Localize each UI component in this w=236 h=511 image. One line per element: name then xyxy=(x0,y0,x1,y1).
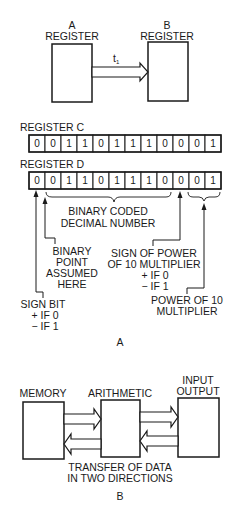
hollow-arrow-left-icon xyxy=(64,434,101,454)
bcd-label-line2: DECIMAL NUMBER xyxy=(61,217,156,229)
hollow-arrow-left-icon xyxy=(140,431,178,451)
binary-point-leader-line xyxy=(45,203,55,244)
register-bit-value: 1 xyxy=(114,175,120,186)
arrowhead-up-icon xyxy=(43,197,48,204)
figure-b: MEMORY ARITHMETIC INPUT OUTPUT TRANSFER … xyxy=(19,374,220,502)
register-bit-value: 1 xyxy=(66,175,72,186)
arrowhead-up-icon xyxy=(34,190,39,197)
figure-a: A REGISTER B REGISTER t1 REGISTER C 0011… xyxy=(20,19,223,348)
register-bit-value: 0 xyxy=(50,138,56,149)
register-a-box xyxy=(52,44,92,102)
sign-bit-leader-line xyxy=(36,196,43,298)
register-bit-value: 1 xyxy=(66,138,72,149)
arithmetic-box xyxy=(101,400,140,457)
diagram-canvas: A REGISTER B REGISTER t1 REGISTER C 0011… xyxy=(0,0,236,511)
arrowhead-up-icon xyxy=(178,191,183,198)
register-bit-value: 0 xyxy=(178,175,184,186)
transfer-label-line2: IN TWO DIRECTIONS xyxy=(67,472,172,484)
arrowhead-up-icon xyxy=(202,203,207,210)
binary-point-line4: HERE xyxy=(57,278,86,290)
transfer-time-label: t1 xyxy=(113,52,120,65)
register-c-cells: 001101110001 xyxy=(29,135,221,152)
register-a: A REGISTER xyxy=(45,19,99,102)
hollow-arrow-right-icon xyxy=(92,63,148,81)
sign-of-power-leader-line xyxy=(153,197,180,246)
register-bit-value: 1 xyxy=(130,175,136,186)
register-d-cells: 001101110001 xyxy=(29,172,221,189)
sign-bit-pointer xyxy=(34,190,44,298)
register-bit-value: 1 xyxy=(114,138,120,149)
io-label-line2: OUTPUT xyxy=(176,385,220,397)
register-bit-value: 1 xyxy=(146,138,152,149)
register-d: REGISTER D 001101110001 xyxy=(20,158,221,189)
io-box xyxy=(178,398,219,457)
bcd-brace xyxy=(46,192,171,202)
sign-of-power-pointer xyxy=(153,191,183,246)
transfer-arrow-a-to-b: t1 xyxy=(92,52,148,81)
register-a-label: REGISTER xyxy=(45,30,99,42)
memory-label: MEMORY xyxy=(19,387,66,399)
bcd-label-line1: BINARY CODED xyxy=(68,205,148,217)
register-b-label: REGISTER xyxy=(140,30,194,42)
register-bit-value: 1 xyxy=(82,175,88,186)
sign-of-power-line4: − IF 1 xyxy=(141,280,168,292)
register-bit-value: 0 xyxy=(98,175,104,186)
register-bit-value: 1 xyxy=(130,138,136,149)
register-d-label: REGISTER D xyxy=(20,158,85,170)
register-bit-value: 0 xyxy=(50,175,56,186)
arithmetic-label: ARITHMETIC xyxy=(88,387,153,399)
register-bit-value: 1 xyxy=(210,175,216,186)
power-of-10-line2: MULTIPLIER xyxy=(156,305,217,317)
register-bit-value: 0 xyxy=(162,138,168,149)
register-bit-value: 1 xyxy=(146,175,152,186)
register-bit-value: 0 xyxy=(34,175,40,186)
register-b: B REGISTER xyxy=(140,19,194,101)
register-bit-value: 0 xyxy=(194,175,200,186)
hollow-arrow-right-icon xyxy=(64,409,101,429)
figure-b-caption: B xyxy=(116,490,123,502)
figure-a-caption: A xyxy=(116,336,123,348)
register-bit-value: 0 xyxy=(34,138,40,149)
register-bit-value: 1 xyxy=(210,138,216,149)
power-brace xyxy=(188,192,220,201)
register-bit-value: 0 xyxy=(194,138,200,149)
register-bit-value: 0 xyxy=(178,138,184,149)
register-bit-value: 1 xyxy=(82,138,88,149)
register-c: REGISTER C 001101110001 xyxy=(20,121,221,152)
hollow-arrow-right-icon xyxy=(140,407,178,427)
register-b-box xyxy=(148,42,188,101)
register-bit-value: 0 xyxy=(98,138,104,149)
binary-point-pointer xyxy=(43,197,56,244)
memory-box xyxy=(23,402,64,459)
register-c-label: REGISTER C xyxy=(20,121,85,133)
register-bit-value: 0 xyxy=(162,175,168,186)
sign-bit-line3: − IF 1 xyxy=(31,320,58,332)
